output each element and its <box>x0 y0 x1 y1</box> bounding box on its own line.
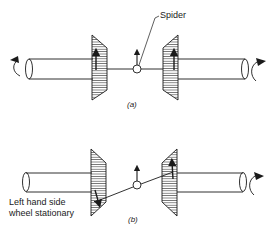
stationary-label-line2: wheel stationary <box>9 208 74 218</box>
right-half-shaft-b <box>177 173 247 193</box>
left-half-shaft-a <box>26 59 94 79</box>
spider-pinion-b <box>133 181 141 189</box>
spider-pinion-a <box>133 65 141 73</box>
spider-leader-line <box>139 16 159 65</box>
panel-a <box>10 16 266 100</box>
right-bevel-gear-b <box>162 149 177 216</box>
left-bevel-gear-a <box>92 35 107 100</box>
rotation-arrow-icon <box>250 172 264 195</box>
right-half-shaft-a <box>178 59 249 79</box>
caption-b: (b) <box>128 215 138 225</box>
rotation-arrow-icon <box>252 58 266 81</box>
left-bevel-gear-b <box>91 149 106 216</box>
caption-a: (a) <box>127 100 137 110</box>
up-arrow-icon <box>172 162 173 179</box>
spider-label: Spider <box>160 10 186 20</box>
left-half-shaft-b <box>23 173 93 193</box>
right-bevel-gear-a <box>163 35 178 100</box>
stationary-label-line1: Left hand side <box>9 197 66 207</box>
rotation-arrow-icon <box>10 56 20 76</box>
